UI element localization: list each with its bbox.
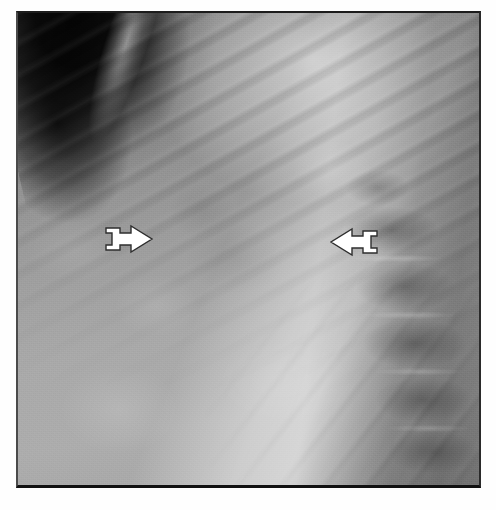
radiograph-frame bbox=[16, 11, 481, 488]
region-rib-striations-lower bbox=[18, 13, 479, 485]
film-grain-overlay bbox=[18, 13, 479, 485]
vignette-overlay bbox=[18, 13, 479, 485]
page-root bbox=[0, 0, 496, 510]
region-parenchymal-mottling bbox=[18, 13, 479, 485]
region-spine-band-right bbox=[18, 13, 479, 485]
region-rib-striations-upper bbox=[18, 13, 479, 485]
region-air-pocket-upper-left bbox=[18, 13, 479, 485]
arrow-right-pointing-icon bbox=[95, 215, 159, 263]
region-vertebral-bodies bbox=[18, 13, 479, 485]
radiograph-image bbox=[18, 13, 479, 485]
region-chest-wall-edge-left bbox=[18, 13, 479, 485]
arrow-left-pointing-icon bbox=[324, 217, 388, 267]
region-soft-tissue-base bbox=[18, 13, 479, 485]
